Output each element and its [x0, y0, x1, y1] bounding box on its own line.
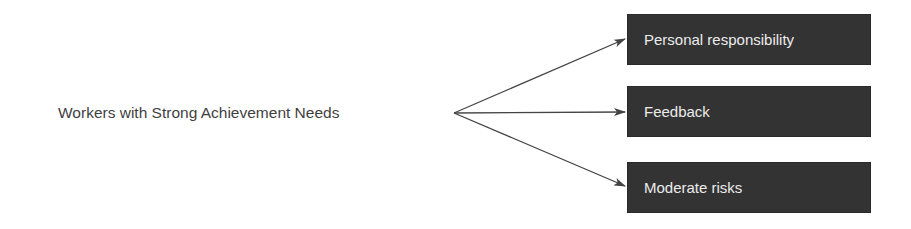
target-label: Moderate risks — [644, 179, 742, 196]
target-label: Feedback — [644, 103, 710, 120]
target-label: Personal responsibility — [644, 31, 794, 48]
target-box-feedback: Feedback — [627, 86, 871, 137]
target-box-personal-responsibility: Personal responsibility — [627, 14, 871, 65]
arrow-to-moderate-risks — [454, 113, 625, 186]
arrow-to-feedback — [454, 112, 625, 113]
target-box-moderate-risks: Moderate risks — [627, 162, 871, 213]
arrow-to-personal-responsibility — [454, 39, 625, 113]
